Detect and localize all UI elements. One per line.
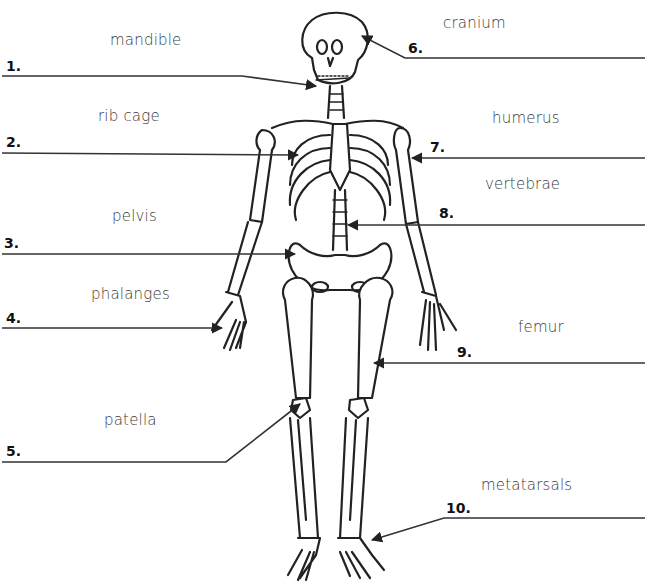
label-word-pelvis: pelvis [112,207,157,225]
label-number-4: 4. [6,310,21,326]
label-word-femur: femur [518,318,564,336]
label-word-humerus: humerus [492,109,560,127]
label-number-10: 10. [446,500,471,516]
label-number-7: 7. [430,139,445,155]
label-number-5: 5. [6,443,21,459]
label-word-phalanges: phalanges [91,285,170,303]
label-number-6: 6. [408,40,423,56]
label-number-8: 8. [439,205,454,221]
label-word-mandible: mandible [110,31,182,49]
label-number-3: 3. [4,235,19,251]
label-number-9: 9. [457,344,472,360]
label-word-vertebrae: vertebrae [485,175,560,193]
label-word-patella: patella [104,411,157,429]
label-word-rib-cage: rib cage [98,107,160,125]
leader-line-1 [2,76,316,86]
label-word-metatarsals: metatarsals [481,476,572,494]
label-number-1: 1. [6,58,21,74]
label-word-cranium: cranium [443,14,506,32]
label-number-2: 2. [6,134,21,150]
